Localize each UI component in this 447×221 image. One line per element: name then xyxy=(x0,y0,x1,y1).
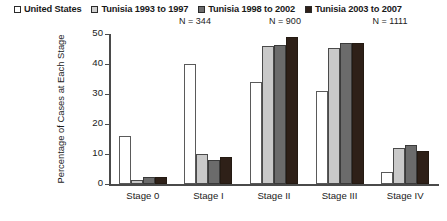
bar-group-stage-iii xyxy=(307,34,373,184)
white-square-icon xyxy=(14,6,21,13)
bar-group-stage-i xyxy=(176,34,242,184)
x-axis-labels: Stage 0Stage IStage IIStage IIIStage IV xyxy=(110,190,438,206)
bar-group-stage-ii xyxy=(241,34,307,184)
x-axis-label-4: Stage IV xyxy=(372,190,438,206)
bars-container xyxy=(110,34,176,184)
x-axis-label-2: Stage II xyxy=(241,190,307,206)
legend-item-0: United States xyxy=(14,4,81,14)
bars-container xyxy=(241,34,307,184)
y-tick-label-40: 40 xyxy=(92,57,103,68)
bar xyxy=(393,148,405,184)
legend-label-0: United States xyxy=(24,4,81,14)
bar xyxy=(250,82,262,184)
mid-gray-square-icon xyxy=(198,6,205,13)
bar xyxy=(155,177,167,185)
bars-container xyxy=(307,34,373,184)
bar xyxy=(131,180,143,185)
x-axis-label-1: Stage I xyxy=(176,190,242,206)
x-axis-line xyxy=(109,184,439,186)
y-tick-label-0: 0 xyxy=(98,177,103,188)
sample-size-tunisia-1998-2002: N = 900 xyxy=(250,16,320,26)
y-tick-label-10: 10 xyxy=(92,147,103,158)
bar xyxy=(196,154,208,184)
bar xyxy=(119,136,131,184)
bar xyxy=(352,43,364,184)
legend-item-1: Tunisia 1993 to 1997 xyxy=(91,4,188,14)
bars-container xyxy=(176,34,242,184)
legend-item-3: Tunisia 2003 to 2007 xyxy=(305,4,402,14)
x-axis-label-0: Stage 0 xyxy=(110,190,176,206)
bar-groups xyxy=(110,34,438,184)
sample-size-tunisia-2003-2007: N = 1111 xyxy=(355,16,425,26)
bar xyxy=(381,172,393,184)
legend-item-2: Tunisia 1998 to 2002 xyxy=(198,4,295,14)
y-tick-label-30: 30 xyxy=(92,87,103,98)
y-tick-mark-0 xyxy=(105,184,110,185)
bar xyxy=(274,45,286,185)
bar xyxy=(286,37,298,184)
x-axis-label-3: Stage III xyxy=(307,190,373,206)
bar xyxy=(328,48,340,185)
bar xyxy=(208,160,220,184)
bar-group-stage-iv xyxy=(372,34,438,184)
legend-label-2: Tunisia 1998 to 2002 xyxy=(208,4,295,14)
sample-size-tunisia-1993-1997: N = 344 xyxy=(160,16,230,26)
legend-label-1: Tunisia 1993 to 1997 xyxy=(101,4,188,14)
y-axis-title: Percentage of Cases at Each Stage xyxy=(55,0,69,34)
bar xyxy=(417,151,429,184)
plot-area: 01020304050 xyxy=(110,34,438,184)
bar-chart-figure: United StatesTunisia 1993 to 1997Tunisia… xyxy=(0,0,447,221)
legend-label-3: Tunisia 2003 to 2007 xyxy=(315,4,402,14)
bar xyxy=(143,177,155,185)
bar-group-stage-0 xyxy=(110,34,176,184)
bar xyxy=(405,145,417,184)
bar xyxy=(262,46,274,184)
y-tick-label-20: 20 xyxy=(92,117,103,128)
y-tick-label-50: 50 xyxy=(92,27,103,38)
legend-items-row: United StatesTunisia 1993 to 1997Tunisia… xyxy=(14,4,439,14)
dark-square-icon xyxy=(305,6,312,13)
light-gray-square-icon xyxy=(91,6,98,13)
bar xyxy=(316,91,328,184)
bar xyxy=(340,43,352,184)
bar xyxy=(220,157,232,184)
bars-container xyxy=(372,34,438,184)
bar xyxy=(184,64,196,184)
